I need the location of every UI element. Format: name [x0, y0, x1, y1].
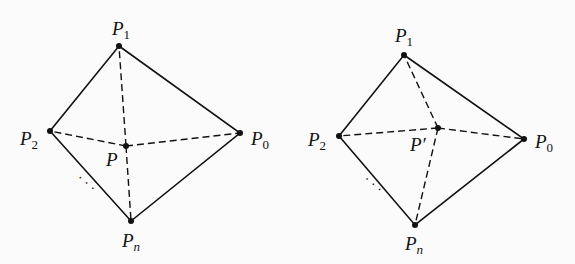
right-label-p2: P2: [307, 129, 326, 153]
right-vertex-p2: [336, 133, 342, 139]
diagram-svg: P1 P2 P0 Pn P · · · P1 P2 P0 Pn P′ · · ·: [0, 0, 575, 264]
left-label-pn: Pn: [121, 230, 140, 254]
left-label-p0: P0: [250, 128, 269, 152]
left-dash-to-p1: [119, 46, 126, 146]
left-vertex-p1: [116, 43, 122, 49]
left-label-p1: P1: [111, 18, 130, 42]
right-polygon-outline: [339, 55, 524, 225]
diagram-canvas: P1 P2 P0 Pn P · · · P1 P2 P0 Pn P′ · · ·: [0, 0, 575, 264]
left-interior-point: [123, 143, 129, 149]
left-ellipsis: · · ·: [74, 171, 100, 196]
left-vertex-p2: [47, 128, 53, 134]
left-dash-to-p0: [126, 133, 240, 146]
right-vertex-pn: [412, 222, 418, 228]
left-polygon-outline: [50, 46, 240, 221]
right-ellipsis: · · ·: [360, 172, 386, 197]
right-interior-point: [435, 125, 441, 131]
right-label-pn: Pn: [404, 233, 423, 257]
right-vertex-p1: [401, 52, 407, 58]
right-figure: P1 P2 P0 Pn P′ · · ·: [307, 25, 553, 257]
left-vertex-p0: [237, 130, 243, 136]
right-label-p-prime: P′: [409, 134, 427, 155]
left-vertex-pn: [128, 218, 134, 224]
right-label-p0: P0: [534, 131, 553, 155]
left-label-p2: P2: [19, 128, 38, 152]
left-label-p: P: [105, 149, 118, 170]
left-dash-to-pn: [126, 146, 131, 221]
right-label-p1: P1: [394, 25, 413, 49]
right-vertex-p0: [521, 136, 527, 142]
left-figure: P1 P2 P0 Pn P · · ·: [19, 18, 269, 254]
